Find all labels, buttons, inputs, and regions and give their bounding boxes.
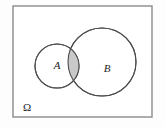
venn-diagram-figure: A B Ω xyxy=(0,0,165,127)
set-a-label: A xyxy=(53,59,61,71)
set-b-label: B xyxy=(104,62,111,74)
venn-diagram-canvas: A B Ω xyxy=(0,0,165,127)
sample-space-omega-label: Ω xyxy=(23,101,31,113)
